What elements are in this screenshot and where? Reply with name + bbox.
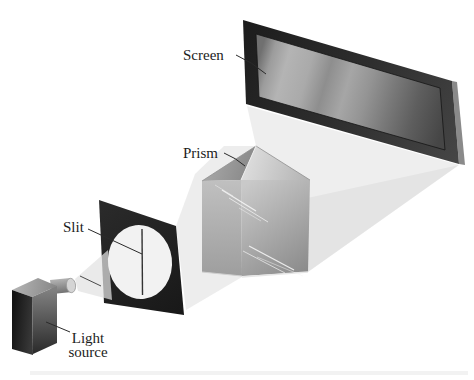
light-source-front-face (12, 290, 33, 355)
prism-label: Prism (183, 145, 218, 161)
light-source-label-line2: source (68, 344, 107, 360)
diagram-canvas: Screen Prism Slit Light source (0, 0, 474, 380)
dispersion-of-light-diagram: Screen Prism Slit Light source (0, 0, 474, 380)
light-source-side-face (32, 286, 57, 354)
slit-opening-line (142, 229, 143, 295)
screen-label: Screen (183, 47, 224, 63)
prism-right-face (241, 180, 310, 276)
prism-left-face (202, 180, 242, 276)
scan-artifact-strip (30, 371, 468, 375)
slit-label: Slit (63, 219, 85, 235)
